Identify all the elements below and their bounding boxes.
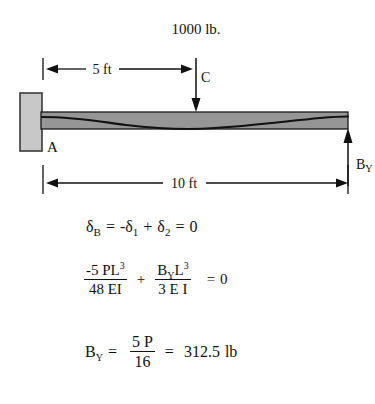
dimension-5ft: [43, 58, 193, 80]
eq3-numerator: 5 P: [130, 333, 155, 352]
eq1-zero: 0: [189, 218, 197, 236]
equation-compatibility: δB = -δ1 + δ2 = 0: [86, 218, 197, 236]
beam-diagram: 1000 lb. C 5 ft A: [0, 0, 375, 210]
point-a-label: A: [47, 139, 58, 155]
beam-diagram-svg: 1000 lb. C 5 ft A: [0, 0, 375, 210]
eq3-equals: =: [103, 343, 122, 361]
eq2-equals: =: [191, 271, 215, 288]
eq3-result-unit: lb: [220, 343, 237, 361]
load-arrow: [192, 58, 201, 112]
eq1-plus: +: [138, 218, 157, 236]
eq2-fraction-right: BYL3 3 E I: [155, 262, 190, 297]
eq3-fraction: 5 P 16: [130, 333, 155, 371]
eq2-denominator-left: 48 EI: [87, 280, 124, 297]
dimension-5ft-label: 5 ft: [92, 62, 111, 77]
reaction-force-label: BY: [356, 157, 373, 174]
eq2-numerator-right: BYL3: [155, 262, 190, 280]
dimension-10ft-label: 10 ft: [171, 176, 197, 191]
eq1-minus-delta-1: -δ1: [120, 218, 138, 236]
fixed-support-wall: [20, 93, 42, 151]
eq2-plus: +: [127, 271, 155, 288]
eq1-equals-2: =: [170, 218, 189, 236]
eq2-numerator-left: -5 PL3: [84, 262, 127, 280]
equations-block: δB = -δ1 + δ2 = 0 -5 PL3 48 EI + BYL3 3 …: [0, 210, 375, 404]
equation-superposition: -5 PL3 48 EI + BYL3 3 E I = 0: [84, 262, 233, 297]
eq3-equals-2: =: [155, 343, 184, 361]
eq2-fraction-left: -5 PL3 48 EI: [84, 262, 127, 297]
equation-result: BY = 5 P 16 = 312.5 lb: [85, 333, 237, 371]
eq1-delta-2: δ2: [157, 218, 170, 236]
eq1-equals: =: [101, 218, 120, 236]
point-c-label: C: [201, 70, 210, 85]
eq2-denominator-right: 3 E I: [156, 280, 189, 297]
eq2-zero: 0: [215, 271, 233, 288]
eq1-delta-b: δB: [86, 218, 101, 236]
load-magnitude-label: 1000 lb.: [171, 21, 220, 37]
eq3-by: BY: [85, 343, 103, 361]
eq3-result-value: 312.5: [184, 343, 220, 361]
eq3-denominator: 16: [132, 352, 152, 370]
